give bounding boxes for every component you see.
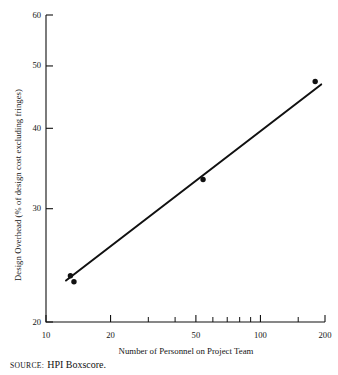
x-tick-label: 200: [310, 330, 338, 340]
data-points-group: [68, 79, 318, 285]
source-note: SOURCE:HPI Boxscore.: [10, 359, 106, 370]
x-tick-label: 10: [31, 330, 61, 340]
y-tick-label: 60: [19, 10, 41, 20]
x-axis-label: Number of Personnel on Project Team: [46, 346, 326, 356]
figure-container: Design Overhead (% of design cost exclud…: [0, 0, 338, 375]
trend-line-group: [66, 84, 321, 280]
x-tick-label: 100: [245, 330, 275, 340]
x-tick-label: 20: [96, 330, 126, 340]
y-tick-label: 20: [19, 317, 41, 327]
y-tick-label: 50: [19, 60, 41, 70]
axis-ticks-group: [46, 15, 325, 322]
axes-group: [46, 15, 325, 322]
source-text: HPI Boxscore.: [47, 359, 106, 370]
source-kicker: SOURCE:: [10, 361, 44, 370]
y-tick-label: 30: [19, 203, 41, 213]
scatter-plot-canvas: [0, 0, 338, 375]
x-tick-label: 50: [181, 330, 211, 340]
y-tick-label: 40: [19, 123, 41, 133]
